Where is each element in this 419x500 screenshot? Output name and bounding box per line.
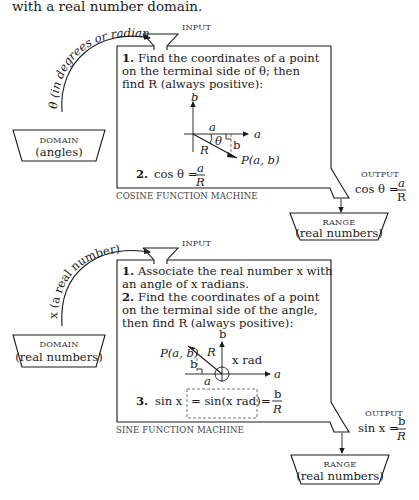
step1-line-2: an angle of x radians. <box>122 277 249 291</box>
step3-eq: = <box>261 394 271 408</box>
domain-subtitle: (angles) <box>35 145 82 159</box>
step2-lhs: cos θ = <box>154 167 198 181</box>
output-denominator: R <box>396 429 406 443</box>
output-denominator: R <box>397 190 406 204</box>
step1-number: 1. <box>122 51 134 65</box>
step2-line-2: on the terminal side of the angle, <box>122 303 318 317</box>
axis-b-label: b <box>191 90 198 104</box>
step3-boxed: = sin(x rad) <box>191 394 261 408</box>
output-lhs: cos θ = <box>355 182 399 196</box>
point-label: P(a, b) <box>240 153 280 167</box>
input-label: INPUT <box>182 238 211 248</box>
intro-text: with a real number domain. <box>12 0 202 14</box>
segment-a-label: a <box>209 120 216 134</box>
output-label: OUTPUT <box>361 169 399 179</box>
function-machines-diagram: with a real number domain. θ (in degrees… <box>0 0 419 500</box>
range-subtitle: (real numbers) <box>295 226 382 240</box>
step1-line-1: Find the coordinates of a point <box>138 51 320 65</box>
input-funnel <box>143 248 178 264</box>
range-title: RANGE <box>324 459 357 469</box>
axis-b-label: b <box>219 327 226 341</box>
step2-numerator: a <box>197 161 204 175</box>
domain-title: DOMAIN <box>39 135 78 145</box>
radius-label: R <box>206 345 216 359</box>
segment-b-label: b <box>233 138 240 152</box>
output-numerator: a <box>398 176 405 190</box>
domain-subtitle: (real numbers) <box>15 350 102 364</box>
radius-label: R <box>199 143 209 157</box>
segment-a-label: a <box>204 374 211 388</box>
sine-machine: x (a real number) INPUT 1. Associate the… <box>13 238 406 484</box>
step1-number: 1. <box>122 264 134 278</box>
axis-a-label: a <box>254 127 261 141</box>
cosine-caption: COSINE FUNCTION MACHINE <box>116 191 258 201</box>
step2-denominator: R <box>195 175 205 189</box>
output-numerator: b <box>398 414 405 428</box>
sine-domain-arrow-label: x (a real number) <box>46 241 121 319</box>
step3-lhs: sin x <box>155 394 183 408</box>
axis-a-label: a <box>274 367 281 381</box>
step1-line-1: Associate the real number x with <box>137 264 333 278</box>
cosine-coordinate-figure: b a a θ R b P(a, b) <box>184 90 280 167</box>
step2-number: 2. <box>136 167 148 181</box>
cosine-machine: θ (in degrees or radians) INPUT 1. Find … <box>0 0 406 240</box>
step1-line-2: on the terminal side of θ; then <box>122 64 300 78</box>
segment-b-label: b <box>190 357 197 371</box>
sine-caption: SINE FUNCTION MACHINE <box>116 425 244 435</box>
step3-number: 3. <box>136 394 148 408</box>
sine-coordinate-figure: P(a, b) b R b a x rad a <box>159 327 281 388</box>
input-label: INPUT <box>182 22 211 32</box>
step3-denominator: R <box>272 402 282 416</box>
angle-label: x rad <box>232 353 263 367</box>
step2-number: 2. <box>122 290 134 304</box>
angle-theta-label: θ <box>215 134 222 148</box>
step1-line-3: find R (always positive): <box>122 77 263 91</box>
step2-line-3: then find R (always positive): <box>122 316 293 330</box>
step3-numerator: b <box>274 387 281 401</box>
range-subtitle: (real numbers) <box>296 469 383 483</box>
step2-line-1: Find the coordinates of a point <box>138 290 320 304</box>
output-lhs: sin x = <box>358 421 399 435</box>
domain-title: DOMAIN <box>39 339 78 349</box>
